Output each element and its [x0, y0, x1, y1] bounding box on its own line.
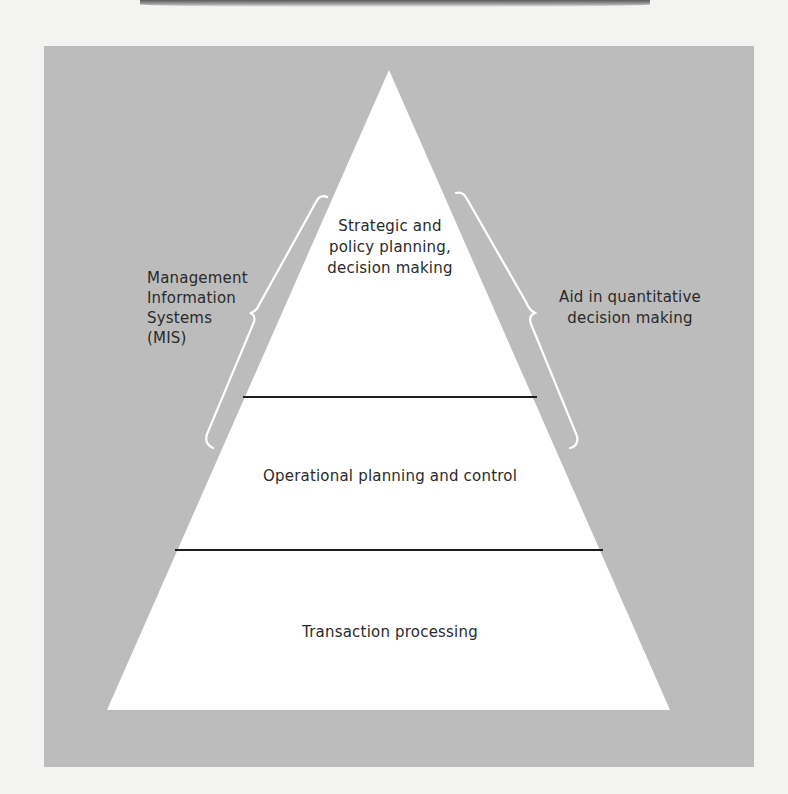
left-brace-line-3: Systems — [147, 308, 257, 328]
level-top-line-1: Strategic and — [300, 216, 480, 237]
left-brace-line-1: Management — [147, 268, 257, 288]
level-bottom-label: Transaction processing — [240, 622, 540, 643]
level-middle-label: Operational planning and control — [220, 466, 560, 487]
left-brace-label: Management Information Systems (MIS) — [147, 268, 257, 348]
right-brace-label: Aid in quantitative decision making — [540, 287, 720, 329]
level-top-line-2: policy planning, — [300, 237, 480, 258]
right-brace-line-1: Aid in quantitative — [540, 287, 720, 308]
left-brace-line-4: (MIS) — [147, 328, 257, 348]
pyramid-diagram — [0, 0, 788, 794]
right-brace-line-2: decision making — [540, 308, 720, 329]
level-top-label: Strategic and policy planning, decision … — [300, 216, 480, 279]
level-top-line-3: decision making — [300, 258, 480, 279]
pyramid-shape — [107, 70, 670, 710]
left-brace-line-2: Information — [147, 288, 257, 308]
